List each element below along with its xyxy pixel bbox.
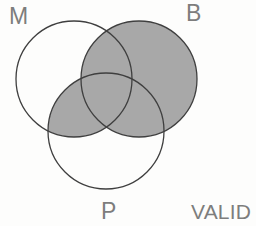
venn-diagram-canvas (0, 0, 256, 226)
validity-label: VALID (191, 201, 251, 222)
circle-label-b: B (186, 2, 201, 25)
venn-diagram: M B P VALID (0, 0, 256, 226)
circle-label-m: M (9, 5, 28, 28)
circle-label-p: P (101, 200, 116, 223)
